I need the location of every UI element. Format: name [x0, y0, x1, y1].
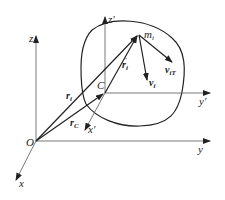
y-axis-label: y [197, 143, 203, 155]
origin-label: O [26, 136, 34, 148]
mass-label: mi [144, 28, 154, 42]
center-label: C [97, 79, 105, 91]
rigid-body-diagram: z y x O z' y' x' C mi ri rC ri' vi viT [0, 0, 225, 200]
r-i-prime-label: ri' [122, 56, 128, 72]
v-iT-label: viT [165, 64, 176, 77]
z-axis-label: z [28, 32, 34, 44]
r-i-label: ri [66, 90, 72, 103]
x-prime-label: x' [87, 123, 96, 135]
r-c-label: rC [70, 117, 79, 130]
fixed-axes [16, 36, 210, 180]
z-prime-label: z' [107, 13, 115, 25]
v-i-label: vi [149, 77, 155, 90]
x-axis-label: x [18, 177, 24, 189]
y-prime-label: y' [198, 95, 207, 107]
v-i-vector [139, 35, 147, 80]
